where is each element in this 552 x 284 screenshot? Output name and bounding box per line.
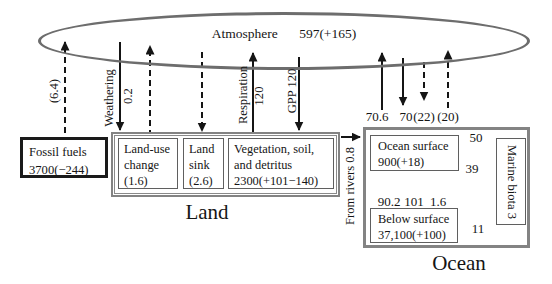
flux-value-biota-to-surface: 39 — [466, 161, 479, 177]
land-sink-line1: Land — [189, 141, 221, 157]
carbon-cycle-diagram: Atmosphere 597(+165) Fossil fuels 3700(−… — [0, 0, 552, 284]
land-use-change-value: (1.6) — [124, 173, 175, 189]
land-sink-line2: sink — [189, 157, 221, 173]
land-zone-label: Land — [185, 200, 228, 225]
flux-value-surface-to-deep: 90.2 — [378, 194, 401, 210]
vegetation-line2: and detritus — [234, 157, 331, 173]
flux-value-biota-to-deep: 11 — [472, 221, 485, 237]
land-sink-value: (2.6) — [189, 173, 221, 189]
land-use-change-line1: Land-use — [124, 141, 175, 157]
ocean-surface-box: Ocean surface 900(+18) — [370, 135, 459, 171]
marine-biota-label: Marine biota 3 — [504, 145, 520, 219]
vegetation-line1: Vegetation, soil, — [234, 141, 331, 157]
marine-biota-box: Marine biota 3 — [496, 138, 526, 225]
land-use-change-box: Land-use change (1.6) — [118, 138, 178, 189]
flux-value-surface-to-biota: 50 — [470, 130, 483, 146]
flux-label-respiration: Respiration — [236, 66, 251, 124]
flux-value-respiration: 120 — [252, 87, 267, 106]
ocean-zone-label: Ocean — [432, 251, 486, 276]
flux-label-from-rivers: From rivers 0.8 — [343, 147, 358, 225]
flux-label-gpp: GPP 120 — [285, 69, 300, 114]
fossil-fuels-name: Fossil fuels — [29, 143, 103, 161]
flux-label-weathering: Weathering — [102, 69, 117, 127]
vegetation-box: Vegetation, soil, and detritus 2300(+101… — [228, 138, 334, 189]
below-surface-stock: 37,100(+100) — [378, 227, 455, 243]
flux-value-anthropogenic-release: (20) — [437, 109, 459, 125]
ocean-surface-name: Ocean surface — [378, 138, 456, 154]
ocean-surface-stock: 900(+18) — [378, 154, 456, 170]
flux-value-deep-to-surface: 101 — [404, 194, 424, 210]
flux-value-anthropogenic-uptake: (22) — [413, 109, 435, 125]
atmosphere-label: Atmosphere 597(+165) — [38, 26, 530, 42]
atmosphere-stock: 597(+165) — [299, 26, 356, 42]
flux-label-fossil-emissions: (6.4) — [47, 79, 62, 103]
flux-value-ocean-uptake: 70 — [400, 109, 413, 125]
flux-value-weathering: 0.2 — [121, 88, 136, 104]
land-use-change-line2: change — [124, 157, 175, 173]
below-surface-name: Below surface — [378, 211, 455, 227]
land-sink-box: Land sink (2.6) — [183, 138, 224, 189]
below-surface-box: Below surface 37,100(+100) — [370, 208, 458, 243]
flux-value-ocean-outgassing: 70.6 — [366, 109, 389, 125]
flux-value-anthropogenic-surface-to-deep: 1.6 — [430, 194, 446, 210]
atmosphere-name: Atmosphere — [212, 26, 278, 42]
vegetation-stock: 2300(+101−140) — [234, 173, 331, 189]
fossil-fuels-box: Fossil fuels 3700(−244) — [20, 137, 108, 178]
fossil-fuels-stock: 3700(−244) — [29, 161, 103, 179]
